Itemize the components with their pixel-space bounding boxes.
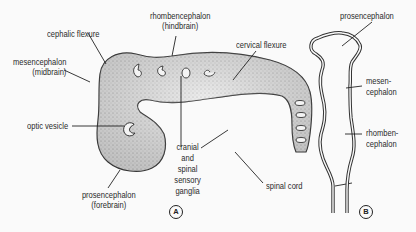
- label-ganglia-sensory: sensory: [170, 175, 205, 185]
- label-rhombencephalon: rhombencephalon: [145, 11, 215, 21]
- spinal-ganglion-1: [295, 101, 305, 106]
- label-spinal-cord: spinal cord: [266, 181, 303, 191]
- ganglion-3: [182, 68, 190, 78]
- label-mesen: mesen-: [366, 76, 391, 86]
- label-midbrain: (midbrain): [3, 67, 66, 77]
- label-hindbrain: (hindbrain): [145, 21, 215, 31]
- panel-label-a: A: [169, 205, 183, 219]
- label-ganglia-ganglia: ganglia: [170, 186, 205, 196]
- label-mesencephalon: mesencephalon: [3, 57, 66, 67]
- label-forebrain: (forebrain): [78, 200, 140, 210]
- spinal-ganglion-2: [296, 113, 306, 118]
- label-optic-vesicle: optic vesicle: [27, 121, 68, 131]
- figure-b-neural-tube: [311, 22, 372, 213]
- label-rhomben-cephalon: cephalon: [366, 139, 397, 149]
- label-prosencephalon-a: prosencephalon: [78, 190, 140, 200]
- label-prosencephalon-b: prosencephalon: [340, 11, 394, 21]
- spinal-ganglion-4: [296, 138, 306, 143]
- panel-label-b: B: [359, 205, 373, 219]
- label-ganglia-cranial: cranial: [170, 142, 205, 152]
- figure-a-embryo: [64, 33, 352, 188]
- label-mesen-cephalon: cephalon: [366, 87, 397, 97]
- label-cervical-flexure: cervical flexure: [236, 40, 286, 50]
- label-cephalic-flexure: cephalic flexure: [47, 29, 100, 39]
- label-rhomben: rhomben-: [366, 128, 398, 138]
- spinal-ganglion-3: [296, 126, 306, 131]
- label-ganglia-spinal: spinal: [170, 164, 205, 174]
- label-ganglia-and: and: [170, 153, 205, 163]
